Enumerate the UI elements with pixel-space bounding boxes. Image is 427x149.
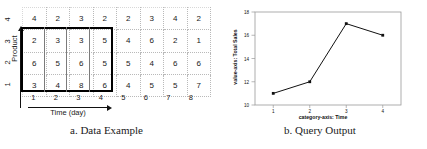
time-tick-1: 1: [22, 93, 45, 102]
cell: 3: [70, 30, 94, 52]
cell: 2: [187, 8, 211, 30]
time-axis-ticks: 1 2 3 4 5 6 7 8: [22, 93, 202, 105]
cell: 2: [93, 8, 117, 30]
cell: 6: [187, 52, 211, 74]
caption-b: b. Query Output: [213, 124, 427, 136]
caption-a: a. Data Example: [0, 124, 213, 136]
time-tick-2: 2: [45, 93, 68, 102]
table-body: 4 2 3 2 2 3 4 2 2 3 3: [23, 8, 211, 97]
product-tick-1: 1: [3, 80, 12, 90]
data-point-3: [345, 22, 348, 25]
panel-query-output: 10 12 14 16 18 1 2 3 4: [213, 0, 427, 149]
time-tick-7: 7: [157, 93, 180, 102]
time-tick-3: 3: [67, 93, 90, 102]
cell: 4: [117, 30, 141, 52]
cell: 3: [140, 8, 164, 30]
product-axis-arrow: [20, 30, 21, 108]
product-tick-2: 2: [3, 58, 12, 68]
cell: 3: [46, 30, 70, 52]
cell: 2: [23, 30, 47, 52]
cell: 2: [117, 8, 141, 30]
data-point-2: [308, 80, 311, 83]
line-chart: 10 12 14 16 18 1 2 3 4: [213, 0, 427, 120]
y-tick-label-18: 18: [244, 10, 250, 15]
y-tick-label-10: 10: [244, 103, 250, 108]
data-table: 4 2 3 2 2 3 4 2 2 3 3: [22, 7, 211, 97]
x-axis-ticks: [273, 105, 383, 108]
cell: 5: [117, 52, 141, 74]
table-row: 6 5 6 5 5 4 6 6: [23, 52, 211, 74]
grid-cells: 4 2 3 2 2 3 4 2 2 3 3: [22, 7, 202, 92]
value-axis-title: value-axis: Total Sales: [232, 17, 238, 97]
table-row: 2 3 3 5 4 6 2 1: [23, 30, 211, 52]
panel-data-example: Product 1 2 3 4 4 2 3 2 2 3: [0, 0, 213, 149]
product-tick-4: 4: [3, 15, 12, 25]
y-tick-label-16: 16: [244, 33, 250, 38]
data-grid: Product 1 2 3 4 4 2 3 2 2 3: [0, 0, 213, 120]
plot-frame: [255, 12, 401, 105]
time-tick-5: 5: [112, 93, 135, 102]
cell: 4: [140, 52, 164, 74]
data-point-1: [272, 92, 275, 95]
cell: 2: [46, 8, 70, 30]
cell: 5: [93, 30, 117, 52]
y-tick-label-14: 14: [244, 57, 250, 62]
time-tick-8: 8: [180, 93, 203, 102]
cell: 3: [70, 8, 94, 30]
cell: 6: [164, 52, 188, 74]
y-axis-ticks: [252, 12, 256, 105]
cell: 5: [93, 52, 117, 74]
cell: 6: [23, 52, 47, 74]
time-tick-6: 6: [135, 93, 158, 102]
cell: 6: [70, 52, 94, 74]
cell: 2: [164, 30, 188, 52]
cell: 4: [23, 8, 47, 30]
data-point-4: [381, 34, 384, 37]
product-tick-3: 3: [3, 37, 12, 47]
product-axis-label: Product: [10, 21, 19, 77]
time-tick-4: 4: [90, 93, 113, 102]
cell: 1: [187, 30, 211, 52]
table-row: 4 2 3 2 2 3 4 2: [23, 8, 211, 30]
cell: 6: [140, 30, 164, 52]
cell: 5: [46, 52, 70, 74]
chart-canvas: 10 12 14 16 18 1 2 3 4: [213, 0, 427, 120]
time-axis-label: Time (day): [28, 108, 108, 117]
y-tick-label-12: 12: [244, 80, 250, 85]
figure-container: Product 1 2 3 4 4 2 3 2 2 3: [0, 0, 427, 149]
category-axis-title: category-axis: Time: [253, 114, 393, 120]
cell: 4: [164, 8, 188, 30]
